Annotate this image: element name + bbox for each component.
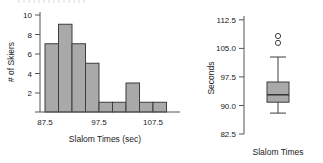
histogram-bars bbox=[45, 24, 167, 112]
histogram-x-ticklabel-107-5: 107.5 bbox=[143, 118, 164, 127]
boxplot-y-ticklabel-112-5: 112.5 bbox=[217, 16, 237, 25]
histogram-bar-4 bbox=[86, 63, 100, 112]
histogram-bar-5 bbox=[99, 102, 113, 112]
histogram-x-ticklabel-97-5: 97.5 bbox=[91, 118, 107, 127]
histogram-bar-9 bbox=[153, 102, 167, 112]
histogram-y-ticklabel-8: 8 bbox=[28, 31, 33, 40]
boxplot-y-ticklabel-82-5: 82.5 bbox=[220, 130, 236, 139]
boxplot-y-ticklabel-90-0: 90.0 bbox=[220, 102, 236, 111]
histogram-y-axis: 2 4 6 8 10 # of Skiers bbox=[6, 11, 40, 112]
boxplot-x-axis-label: Slalom Times bbox=[252, 147, 303, 157]
boxplot-y-axis: 82.5 90.0 97.5 105.0 112.5 Seconds bbox=[206, 16, 244, 139]
boxplot-panel: 82.5 90.0 97.5 105.0 112.5 Seconds Slalo… bbox=[200, 0, 323, 163]
histogram-y-ticklabel-6: 6 bbox=[28, 50, 33, 59]
histogram-bar-7 bbox=[126, 83, 140, 112]
boxplot-y-ticklabel-97-5: 97.5 bbox=[220, 73, 236, 82]
boxplot-y-ticklabel-105-0: 105.0 bbox=[216, 44, 237, 53]
histogram-y-ticklabel-10: 10 bbox=[23, 11, 32, 20]
histogram-bar-2 bbox=[59, 24, 73, 112]
boxplot-outlier-2 bbox=[275, 33, 280, 38]
histogram-bar-8 bbox=[140, 102, 154, 112]
boxplot-y-axis-label: Seconds bbox=[206, 61, 216, 94]
histogram-x-axis: 87.5 97.5 107.5 Slalom Times (sec) bbox=[37, 112, 180, 144]
boxplot-outlier-1 bbox=[275, 40, 280, 45]
histogram-y-ticklabel-2: 2 bbox=[28, 89, 33, 98]
histogram-bar-1 bbox=[45, 44, 59, 112]
histogram-x-axis-label: Slalom Times (sec) bbox=[69, 134, 141, 144]
histogram-y-ticklabel-4: 4 bbox=[28, 70, 33, 79]
histogram-x-ticklabel-87-5: 87.5 bbox=[37, 118, 53, 127]
histogram-bar-6 bbox=[113, 102, 127, 112]
boxplot-box-group bbox=[267, 33, 289, 113]
boxplot-box bbox=[267, 82, 289, 102]
histogram-bar-3 bbox=[72, 44, 86, 112]
slalom-times-figure: 2 4 6 8 10 # of Skiers 87.5 97.5 107.5 S… bbox=[0, 0, 323, 163]
histogram-y-axis-label: # of Skiers bbox=[6, 42, 16, 82]
histogram-panel: 2 4 6 8 10 # of Skiers 87.5 97.5 107.5 S… bbox=[0, 0, 200, 163]
